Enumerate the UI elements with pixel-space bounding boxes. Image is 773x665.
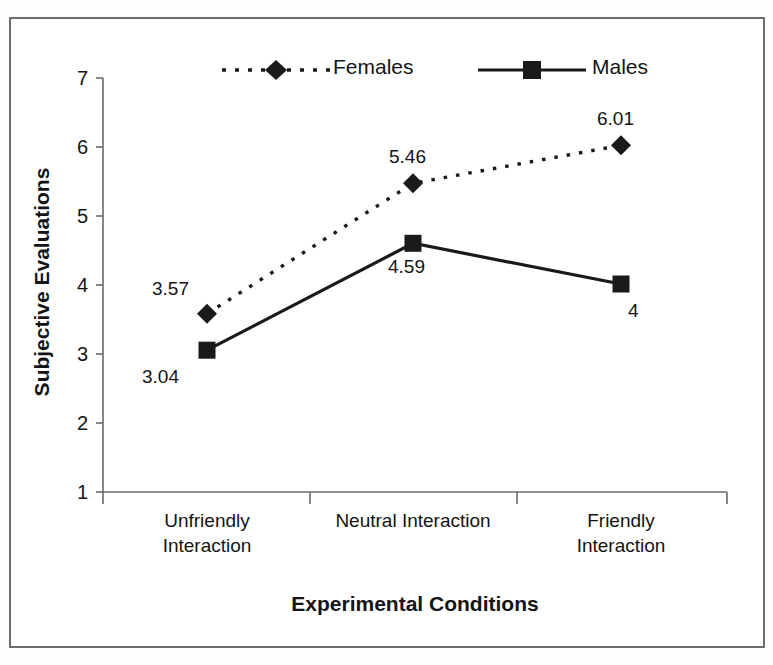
series-line-females (207, 145, 621, 313)
data-label-males-1: 3.04 (142, 366, 179, 388)
line-chart-plot (0, 0, 773, 665)
x-axis-title: Experimental Conditions (103, 592, 727, 616)
y-tick-label-3: 3 (58, 343, 88, 366)
data-label-males-3: 4 (628, 300, 639, 322)
marker-square-males (199, 235, 630, 359)
data-label-females-1: 3.57 (152, 278, 189, 300)
x-category-line-1: Neutral Interaction (313, 508, 513, 533)
legend-label-males: Males (592, 55, 648, 79)
y-tick-label-1: 1 (58, 481, 88, 504)
y-tick-label-5: 5 (58, 205, 88, 228)
data-label-females-3: 6.01 (597, 108, 634, 130)
x-category-line-1: Unfriendly (127, 508, 287, 533)
x-category-line-1: Friendly (541, 508, 701, 533)
x-category-label-friendly: Friendly Interaction (541, 508, 701, 558)
legend-sample-females (222, 60, 330, 80)
x-category-line-2: Interaction (541, 533, 701, 558)
data-label-males-2: 4.59 (388, 256, 425, 278)
x-category-line-2: Interaction (127, 533, 287, 558)
legend-label-females: Females (333, 55, 414, 79)
y-tick-label-4: 4 (58, 274, 88, 297)
y-tick-label-7: 7 (58, 67, 88, 90)
chart-figure: 7 6 5 4 3 2 1 Subjective Evaluations Unf… (0, 0, 773, 665)
legend-sample-males (478, 61, 586, 79)
x-axis-ticks (103, 492, 727, 504)
x-category-label-neutral: Neutral Interaction (313, 508, 513, 533)
x-category-label-unfriendly: Unfriendly Interaction (127, 508, 287, 558)
data-label-females-2: 5.46 (389, 146, 426, 168)
y-tick-label-2: 2 (58, 412, 88, 435)
y-tick-label-6: 6 (58, 136, 88, 159)
y-axis-ticks (96, 78, 103, 492)
y-axis-title: Subjective Evaluations (30, 92, 54, 472)
